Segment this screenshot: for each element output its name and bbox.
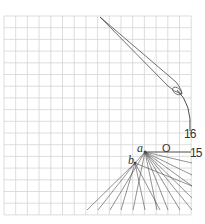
- label-point-a: a: [137, 142, 143, 154]
- needle-shape: [100, 17, 183, 96]
- fan-lines: [87, 152, 192, 210]
- label-15: 15: [190, 147, 201, 159]
- construction-diagram: [0, 0, 205, 224]
- label-16: 16: [184, 128, 195, 140]
- label-point-b: b: [128, 154, 134, 166]
- grid: [4, 16, 191, 215]
- arc-curve: [177, 90, 190, 131]
- label-origin: O: [162, 143, 171, 154]
